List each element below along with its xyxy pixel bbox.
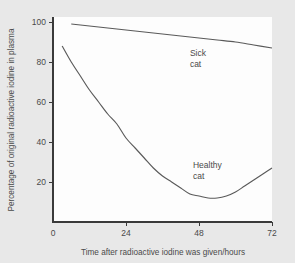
series-label: cat — [193, 171, 205, 181]
y-tick-label: 100 — [32, 17, 46, 27]
line-chart: 20406080100 0244872 SickcatHealthycat Pe… — [0, 0, 295, 263]
y-tick-label: 60 — [37, 97, 47, 107]
x-tick-label: 24 — [121, 228, 131, 238]
plot-area-background — [53, 17, 272, 222]
y-tick-label: 40 — [37, 137, 47, 147]
y-tick-label: 80 — [37, 57, 47, 67]
x-axis-title: Time after radioactive iodine was given/… — [81, 248, 245, 257]
series-label: cat — [190, 59, 202, 69]
x-tick-label: 48 — [194, 228, 204, 238]
x-tick-label: 72 — [267, 228, 277, 238]
series-label: Healthy — [193, 160, 223, 170]
series-label: Sick — [190, 48, 207, 58]
y-axis-title: Percentage of original radioactive iodin… — [7, 28, 16, 211]
chart-figure: 20406080100 0244872 SickcatHealthycat Pe… — [0, 0, 295, 263]
y-tick-label: 20 — [37, 177, 47, 187]
x-tick-label: 0 — [51, 228, 56, 238]
